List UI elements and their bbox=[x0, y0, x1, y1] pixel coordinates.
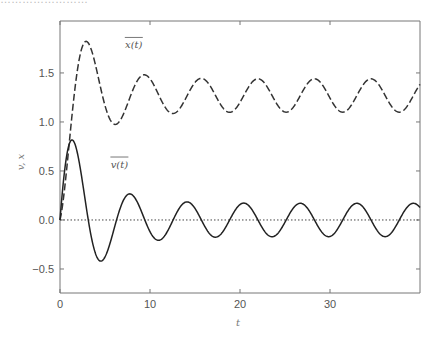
x-tick-label: 20 bbox=[234, 298, 246, 310]
y-tick-label: −0.5 bbox=[32, 263, 54, 275]
y-tick-label: 0.5 bbox=[39, 165, 54, 177]
tick-labels: 0102030−0.50.00.51.01.5 bbox=[32, 67, 336, 310]
v-curve-label: v(t) bbox=[111, 159, 129, 170]
y-tick-label: 0.0 bbox=[39, 214, 54, 226]
y-tick-label: 1.0 bbox=[39, 116, 54, 128]
x-tick-label: 30 bbox=[324, 298, 336, 310]
x-axis-label: t bbox=[236, 317, 241, 328]
x-tick-label: 10 bbox=[144, 298, 156, 310]
curves bbox=[60, 41, 420, 261]
x-tick-label: 0 bbox=[57, 298, 63, 310]
y-tick-label: 1.5 bbox=[39, 67, 54, 79]
curve-labels: x(t)v(t) bbox=[110, 37, 142, 170]
x-curve-label: x(t) bbox=[125, 39, 143, 50]
y-axis-label: v, x bbox=[15, 153, 26, 170]
x-curve bbox=[60, 41, 420, 220]
line-chart: 0102030−0.50.00.51.01.5 t v, x x(t)v(t) bbox=[0, 0, 441, 339]
